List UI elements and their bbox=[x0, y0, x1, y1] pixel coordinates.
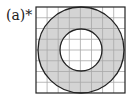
annulus-grid-diagram bbox=[0, 0, 131, 99]
